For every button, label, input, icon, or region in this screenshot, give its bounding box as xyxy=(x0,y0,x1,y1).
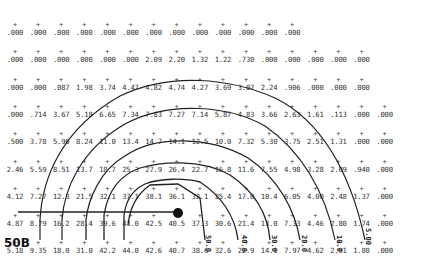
figure-label: 50B xyxy=(4,236,30,250)
contour-label-40: 40.0 xyxy=(240,235,248,252)
contour-lines: 50.0 40.0 30.0 20.0 10.0 5.00 xyxy=(0,0,429,260)
contour-label-50: 50.0 xyxy=(204,235,212,252)
contour-label-30: 30.0 xyxy=(270,235,278,252)
contour-label-10: 10.0 xyxy=(335,235,343,252)
contour-label-5: 5.00 xyxy=(364,228,372,245)
source-dot xyxy=(173,208,183,218)
contour-label-20: 20.0 xyxy=(300,235,308,252)
